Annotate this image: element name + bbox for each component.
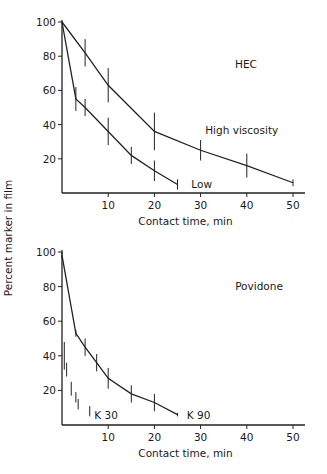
series-line <box>62 22 178 184</box>
series-label: Low <box>191 178 212 190</box>
series-label: High viscosity <box>205 124 278 136</box>
series-k-30: K 30 <box>64 342 118 421</box>
x-tick-label: 50 <box>286 199 299 211</box>
x-tick-label: 30 <box>194 431 207 443</box>
y-axis-label: Percent marker in film <box>2 180 14 296</box>
x-axis-label: Contact time, min <box>138 215 232 227</box>
series-line <box>62 22 293 183</box>
chart-title: Povidone <box>235 280 283 292</box>
series-high-viscosity: High viscosity <box>62 22 293 186</box>
x-tick-label: 20 <box>148 431 161 443</box>
x-tick-label: 10 <box>102 431 115 443</box>
chart-title: HEC <box>235 58 257 70</box>
y-tick-label: 60 <box>43 84 56 96</box>
y-tick-label: 60 <box>43 315 56 327</box>
series-k-90: K 90 <box>62 252 210 421</box>
x-tick-label: 40 <box>240 431 253 443</box>
x-axis-label: Contact time, min <box>138 447 232 459</box>
hec-chart-panel: 204060801001020304050Contact time, minHE… <box>36 16 305 227</box>
x-tick-label: 20 <box>148 199 161 211</box>
y-tick-label: 100 <box>36 16 56 28</box>
series-low: Low <box>62 22 212 190</box>
y-tick-label: 20 <box>43 384 56 396</box>
y-tick-label: 100 <box>36 246 56 258</box>
y-tick-label: 40 <box>43 119 56 131</box>
x-tick-label: 40 <box>240 199 253 211</box>
x-tick-label: 10 <box>102 199 115 211</box>
povidone-chart-panel: 204060801001020304050Contact time, minPo… <box>36 246 305 459</box>
y-tick-label: 40 <box>43 350 56 362</box>
figure: 204060801001020304050Contact time, minHE… <box>0 0 327 474</box>
x-tick-label: 30 <box>194 199 207 211</box>
series-label: K 90 <box>187 409 211 421</box>
x-tick-label: 50 <box>286 431 299 443</box>
y-tick-label: 80 <box>43 281 56 293</box>
y-tick-label: 80 <box>43 50 56 62</box>
series-line <box>62 255 178 414</box>
y-tick-label: 20 <box>43 153 56 165</box>
series-label: K 30 <box>94 409 118 421</box>
